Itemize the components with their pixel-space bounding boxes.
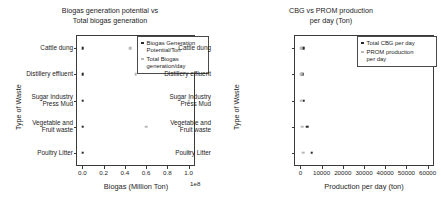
data-point — [301, 125, 304, 128]
x-axis-tick-mark — [364, 166, 365, 169]
y-axis-tick-mark — [292, 74, 295, 75]
x-axis-tick-label: 60000 — [419, 169, 436, 176]
data-point — [81, 99, 84, 102]
legend: Total CBG per dayPROM production per day — [357, 36, 437, 67]
x-axis-tick-label: 0.6 — [142, 169, 151, 176]
x-axis-exponent: 1e8 — [190, 180, 200, 187]
chart-title: CBG vs PROM production per day (Ton) — [221, 6, 441, 25]
data-point — [81, 73, 84, 76]
data-point — [81, 125, 84, 128]
y-axis-tick-label: Distillery effluent — [11, 71, 73, 79]
x-axis-tick-mark — [146, 166, 147, 169]
x-axis-tick-mark — [167, 166, 168, 169]
data-point — [129, 47, 132, 50]
x-axis-tick-mark — [82, 166, 83, 169]
data-point — [145, 125, 148, 128]
x-axis-tick-mark — [343, 166, 344, 169]
x-axis-label: Production per day (ton) — [324, 182, 403, 191]
data-point — [300, 47, 303, 50]
y-axis-tick-label: Distillery effluent — [149, 71, 211, 79]
y-axis-tick-mark — [74, 153, 77, 154]
x-axis-tick-mark — [406, 166, 407, 169]
legend-swatch-icon — [361, 42, 364, 45]
y-axis-tick-mark — [292, 101, 295, 102]
x-axis-tick-label: 1.0 — [184, 169, 193, 176]
legend: Biogas Generation Potential/TonTotal Bio… — [137, 36, 209, 74]
y-axis-tick-label: Cattle dung — [11, 44, 73, 52]
y-axis-label: Type of Waste — [232, 84, 241, 130]
y-axis-tick-label: Vegetable and Fruit waste — [11, 119, 73, 134]
y-axis-tick-mark — [292, 127, 295, 128]
figure-container: Biogas generation potential vs Total bio… — [0, 0, 441, 206]
y-axis-tick-mark — [74, 101, 77, 102]
data-point — [300, 73, 303, 76]
x-axis-tick-label: 0 — [299, 169, 302, 176]
data-point — [302, 99, 305, 102]
y-axis-tick-mark — [74, 74, 77, 75]
x-axis-tick-label: 10000 — [313, 169, 330, 176]
x-axis-tick-label: 0.4 — [121, 169, 130, 176]
y-axis-tick-label: Cattle dung — [149, 44, 211, 52]
x-axis-tick-mark — [189, 166, 190, 169]
x-axis-tick-mark — [385, 166, 386, 169]
x-axis-tick-mark — [125, 166, 126, 169]
x-axis-tick-label: 20000 — [334, 169, 351, 176]
x-axis-tick-mark — [104, 166, 105, 169]
chart-panel-cbg-prom: CBG vs PROM production per day (Ton) Typ… — [221, 0, 441, 206]
legend-item[interactable]: PROM production per day — [361, 49, 433, 63]
legend-label: Total Biogas generation/day — [147, 56, 186, 70]
data-point — [300, 99, 303, 102]
x-axis-tick-label: 50000 — [398, 169, 415, 176]
data-point — [302, 152, 305, 155]
data-point — [81, 47, 84, 50]
data-point — [306, 125, 309, 128]
x-axis-label: Biogas (Million Ton) — [104, 182, 168, 191]
y-axis-tick-mark — [74, 127, 77, 128]
x-axis-tick-label: 40000 — [377, 169, 394, 176]
y-axis-tick-mark — [74, 48, 77, 49]
x-axis-tick-label: 0.2 — [99, 169, 108, 176]
data-point — [81, 152, 84, 155]
x-axis-tick-mark — [300, 166, 301, 169]
y-axis-tick-label: Sugar Industry Press Mud — [149, 93, 211, 108]
legend-label: Total CBG per day — [367, 40, 415, 47]
legend-swatch-icon — [141, 58, 144, 61]
x-axis-tick-mark — [322, 166, 323, 169]
y-axis-tick-mark — [292, 153, 295, 154]
y-axis-tick-label: Poultry Litter — [149, 149, 211, 157]
legend-item[interactable]: Total Biogas generation/day — [141, 56, 205, 70]
legend-swatch-icon — [361, 51, 364, 54]
legend-item[interactable]: Total CBG per day — [361, 40, 433, 47]
y-axis-tick-label: Vegetable and Fruit waste — [149, 119, 211, 134]
y-axis-tick-mark — [292, 48, 295, 49]
y-axis-tick-label: Poultry Litter — [11, 149, 73, 157]
legend-swatch-icon — [141, 42, 144, 45]
x-axis-tick-label: 0.8 — [163, 169, 172, 176]
legend-label: PROM production per day — [367, 49, 414, 63]
x-axis-tick-mark — [428, 166, 429, 169]
y-axis-tick-label: Sugar Industry Press Mud — [11, 93, 73, 108]
chart-title: Biogas generation potential vs Total bio… — [0, 6, 220, 25]
data-point — [311, 152, 314, 155]
x-axis-tick-label: 30000 — [355, 169, 372, 176]
x-axis-tick-label: 0.0 — [78, 169, 87, 176]
